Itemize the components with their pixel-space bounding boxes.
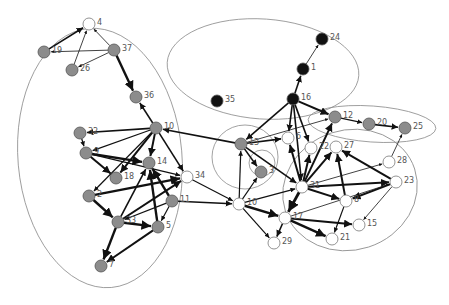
edge-10a-to-36 [140, 103, 153, 123]
node-10a[interactable]: 10 [150, 122, 174, 134]
node-23[interactable]: 23 [390, 176, 414, 188]
edge-31-to-8 [308, 189, 340, 199]
node-label: 19 [52, 46, 62, 55]
node-circle[interactable] [110, 172, 122, 184]
node-20[interactable]: 20 [363, 118, 387, 130]
node-6[interactable]: 6 [282, 132, 301, 144]
node-circle[interactable] [279, 212, 291, 224]
node-1[interactable]: 1 [297, 63, 316, 75]
edge-2-to-33 [93, 200, 112, 217]
node-34[interactable]: 34 [181, 171, 205, 183]
node-circle[interactable] [399, 122, 411, 134]
node-2[interactable]: 2 [83, 190, 102, 202]
node-36[interactable]: 36 [130, 91, 154, 103]
node-label: 27 [344, 141, 354, 150]
node-label: 25 [413, 122, 423, 131]
edge-34-to-10b [192, 180, 232, 201]
edge-31-to-17 [288, 192, 299, 212]
node-circle[interactable] [383, 156, 395, 168]
node-circle[interactable] [235, 138, 247, 150]
node-35[interactable]: 35 [211, 95, 235, 107]
node-label: 8 [354, 195, 359, 204]
node-circle[interactable] [287, 93, 299, 105]
node-circle[interactable] [330, 141, 342, 153]
node-15[interactable]: 15 [353, 219, 377, 231]
node-32[interactable]: 32 [74, 127, 98, 139]
node-25[interactable]: 25 [399, 122, 423, 134]
edge-17-to-21 [290, 220, 325, 236]
node-12[interactable]: 12 [329, 111, 353, 123]
node-circle[interactable] [80, 147, 92, 159]
node-37[interactable]: 37 [108, 44, 132, 56]
node-circle[interactable] [233, 198, 245, 210]
node-circle[interactable] [83, 18, 95, 30]
node-circle[interactable] [181, 171, 193, 183]
node-circle[interactable] [326, 233, 338, 245]
node-label: 5 [166, 221, 171, 230]
edge-37-to-4 [94, 29, 110, 46]
node-circle[interactable] [83, 190, 95, 202]
node-circle[interactable] [66, 64, 78, 76]
node-4[interactable]: 4 [83, 18, 102, 30]
node-label: 4 [97, 18, 102, 27]
node-label: 23 [404, 176, 414, 185]
node-16[interactable]: 16 [287, 93, 311, 105]
node-label: 22 [319, 142, 329, 151]
node-circle[interactable] [353, 219, 365, 231]
node-circle[interactable] [38, 46, 50, 58]
node-label: 3 [269, 166, 274, 175]
node-circle[interactable] [329, 111, 341, 123]
node-26[interactable]: 26 [66, 64, 90, 76]
edge-10a-to-9 [93, 130, 151, 151]
node-24[interactable]: 24 [316, 33, 340, 45]
node-21[interactable]: 21 [326, 233, 350, 245]
node-circle[interactable] [130, 91, 142, 103]
node-label: 6 [296, 132, 301, 141]
node-label: 2 [97, 190, 102, 199]
node-label: 21 [340, 233, 350, 242]
node-label: 10 [164, 122, 174, 131]
node-circle[interactable] [282, 132, 294, 144]
node-circle[interactable] [363, 118, 375, 130]
node-circle[interactable] [305, 142, 317, 154]
node-circle[interactable] [268, 237, 280, 249]
node-7[interactable]: 7 [95, 260, 114, 272]
node-circle[interactable] [297, 63, 309, 75]
node-9[interactable]: 9 [80, 147, 99, 159]
node-28[interactable]: 28 [383, 156, 407, 168]
node-circle[interactable] [95, 260, 107, 272]
node-circle[interactable] [255, 166, 267, 178]
node-18[interactable]: 18 [110, 172, 134, 184]
node-11[interactable]: 11 [166, 195, 190, 207]
node-circle[interactable] [211, 95, 223, 107]
node-circle[interactable] [152, 221, 164, 233]
node-circle[interactable] [112, 216, 124, 228]
node-circle[interactable] [143, 157, 155, 169]
node-14[interactable]: 14 [143, 157, 167, 169]
node-17[interactable]: 17 [279, 212, 303, 224]
node-29[interactable]: 29 [268, 237, 292, 249]
node-label: 15 [367, 219, 377, 228]
node-circle[interactable] [150, 122, 162, 134]
node-label: 14 [157, 157, 167, 166]
node-22[interactable]: 22 [305, 142, 329, 154]
node-circle[interactable] [74, 127, 86, 139]
edge-10b-to-17 [245, 206, 279, 216]
node-circle[interactable] [390, 176, 402, 188]
node-circle[interactable] [296, 181, 308, 193]
node-label: 34 [195, 171, 205, 180]
edge-26-to-4 [74, 31, 86, 65]
node-5[interactable]: 5 [152, 221, 171, 233]
edge-16-to-12 [299, 101, 329, 114]
edge-11-to-5 [161, 206, 169, 221]
node-label: 37 [122, 44, 132, 53]
cluster-outlines [7, 12, 437, 294]
node-circle[interactable] [340, 195, 352, 207]
edge-16-to-1 [295, 76, 301, 94]
cluster-top-center [164, 12, 363, 125]
node-circle[interactable] [316, 33, 328, 45]
node-label: 24 [330, 33, 340, 42]
node-circle[interactable] [166, 195, 178, 207]
node-circle[interactable] [108, 44, 120, 56]
node-8[interactable]: 8 [340, 195, 359, 207]
